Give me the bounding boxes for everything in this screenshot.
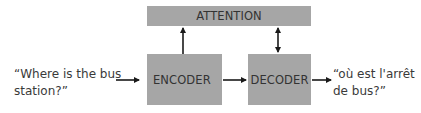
arrows-layer xyxy=(0,0,421,113)
